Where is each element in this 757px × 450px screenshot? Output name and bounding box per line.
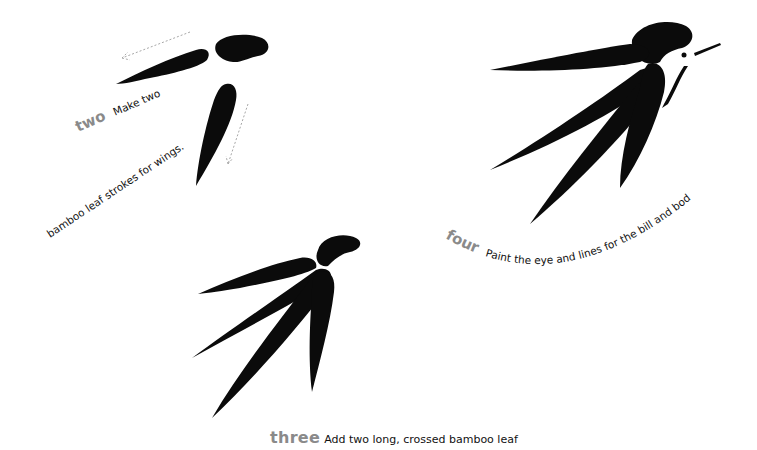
step-two-text-line2: bamboo leaf strokes for wings. — [44, 140, 185, 240]
tail-stroke-right — [310, 271, 335, 392]
step-four-caption: four Paint the eye and lines for the bil… — [0, 0, 692, 266]
step-four-text: Paint the eye and lines for the bill and… — [0, 0, 692, 266]
painting-instructions-page: two Make two bamboo leaf strokes for win… — [0, 0, 757, 450]
step-three-text: Add two long, crossed bamboo leaf — [324, 433, 518, 446]
body-line-stroke — [662, 66, 688, 108]
wing-stroke-upper — [116, 49, 209, 84]
bird-step-three — [192, 235, 360, 418]
caption-step-three: threeAdd two long, crossed bamboo leaf — [270, 428, 518, 447]
step-two-text-line: bamboo leaf strokes for wings. — [44, 140, 185, 240]
step-two-label-line: two Make two — [72, 87, 161, 136]
step-number-two: two — [72, 107, 108, 136]
wing-stroke-lower — [196, 84, 237, 186]
wing-stroke-top — [490, 44, 649, 71]
illustration-canvas: two Make two bamboo leaf strokes for win… — [0, 0, 757, 450]
bird-step-two — [116, 32, 268, 186]
head-stroke — [316, 235, 360, 266]
caption-step-four: four Paint the eye and lines for the bil… — [0, 0, 692, 266]
eye-dot — [682, 53, 687, 58]
step-two-text-line1: Make two — [111, 87, 162, 118]
bill-stroke — [694, 43, 721, 56]
head-stroke — [215, 35, 268, 62]
step-number-four: four — [443, 226, 482, 257]
step-number-three: three — [270, 428, 320, 447]
caption-step-two: two Make two bamboo leaf strokes for win… — [44, 87, 185, 240]
